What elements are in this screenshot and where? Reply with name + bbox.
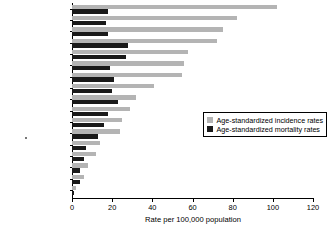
x-axis-tick (112, 199, 113, 202)
x-axis-tick-label-120: 120 (293, 203, 331, 212)
bar-mortality (72, 89, 112, 93)
x-axis-tick (152, 199, 153, 202)
bar-incidence (72, 129, 120, 133)
bar-incidence (72, 118, 122, 122)
bar-incidence (72, 73, 182, 77)
bar-incidence (72, 84, 154, 88)
chart-row: France (72, 61, 313, 72)
bar-mortality (72, 32, 108, 36)
bar-incidence (72, 5, 277, 9)
x-axis-tick-label-40: 40 (132, 203, 172, 212)
bar-mortality (72, 146, 86, 150)
bar-mortality (72, 112, 108, 116)
x-axis-tick-label-0: 0 (52, 203, 92, 212)
bar-mortality (72, 134, 98, 138)
bar-mortality (72, 180, 80, 184)
chart-row: Japan (72, 152, 313, 163)
bar-incidence (72, 39, 217, 43)
bar-incidence (72, 186, 76, 190)
x-axis-tick (273, 199, 274, 202)
bar-incidence (72, 107, 130, 111)
legend-label-mortality: Age-standardized mortality rates (217, 125, 320, 134)
legend-swatch-mortality-icon (207, 126, 213, 132)
bar-incidence (72, 163, 88, 167)
x-axis-tick-label-20: 20 (92, 203, 132, 212)
x-axis-tick-label-60: 60 (173, 203, 213, 212)
chart-row: Netherlands (72, 72, 313, 83)
bar-mortality (72, 123, 104, 127)
x-axis-tick-label-100: 100 (253, 203, 293, 212)
bar-incidence (72, 141, 100, 145)
legend-label-incidence: Age-standardized incidence rates (217, 116, 324, 125)
bar-mortality (72, 100, 118, 104)
chart-row: Australia (72, 27, 313, 38)
bar-incidence (72, 27, 223, 31)
stray-speck (25, 137, 27, 139)
bar-mortality (72, 9, 108, 13)
bar-incidence (72, 175, 84, 179)
chart-row: India (72, 174, 313, 185)
bar-mortality (72, 66, 110, 70)
chart-row: USA (72, 4, 313, 15)
legend-item-incidence: Age-standardized incidence rates (207, 116, 323, 125)
chart-row: Sweden (72, 38, 313, 49)
x-axis-tick (72, 199, 73, 202)
chart-row: Switzerland (72, 49, 313, 60)
chart-row: UK (72, 83, 313, 94)
chart-row: Canada (72, 15, 313, 26)
legend-swatch-incidence-icon (207, 117, 213, 123)
x-axis-tick (233, 199, 234, 202)
bar-mortality (72, 157, 84, 161)
bar-mortality (72, 43, 128, 47)
bar-incidence (72, 61, 184, 65)
bar-mortality (72, 168, 80, 172)
x-axis-tick (193, 199, 194, 202)
bar-mortality (72, 55, 126, 59)
plot-area: USACanadaAustraliaSwedenSwitzerlandFranc… (72, 4, 313, 198)
bar-incidence (72, 95, 136, 99)
bar-mortality (72, 191, 74, 195)
x-axis-tick-label-80: 80 (213, 203, 253, 212)
chart-row: China (72, 186, 313, 197)
x-axis-title: Rate per 100,000 population (72, 215, 314, 224)
bar-mortality (72, 21, 106, 25)
bar-incidence (72, 16, 237, 20)
chart-row: China, Hong Kong (72, 163, 313, 174)
x-axis-tick (313, 199, 314, 202)
chart-row: Singapore (72, 140, 313, 151)
bar-mortality (72, 77, 114, 81)
chart-row: Denmark (72, 95, 313, 106)
chart-legend: Age-standardized incidence rates Age-sta… (203, 112, 327, 137)
bar-incidence (72, 50, 188, 54)
bar-incidence (72, 152, 96, 156)
legend-item-mortality: Age-standardized mortality rates (207, 125, 323, 134)
